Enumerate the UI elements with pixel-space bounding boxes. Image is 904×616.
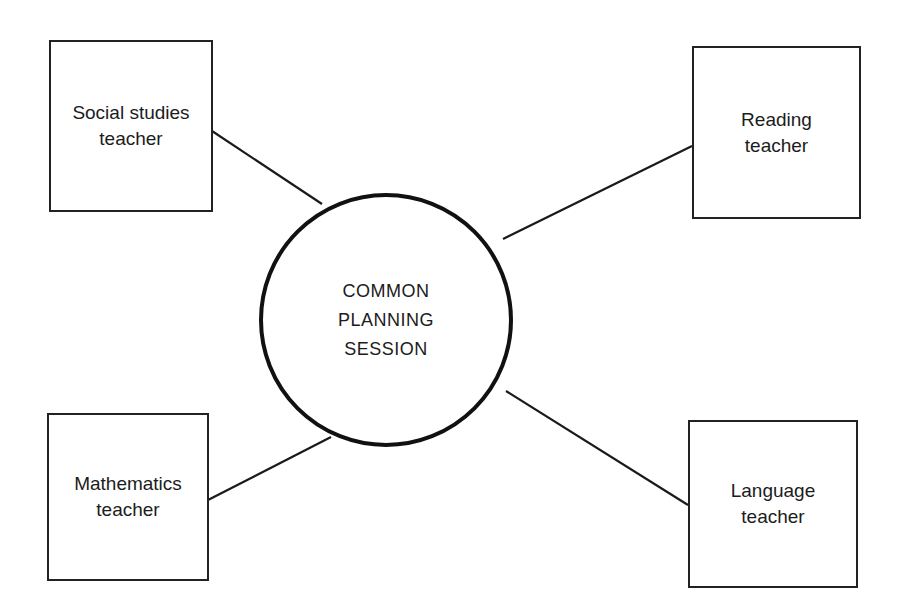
language-teacher-label: Language teacher <box>731 478 816 530</box>
edge-language-to-center <box>506 391 688 505</box>
mathematics-teacher-node: Mathematics teacher <box>47 413 209 581</box>
common-planning-session-hub: COMMON PLANNING SESSION <box>259 193 513 447</box>
mathematics-teacher-label: Mathematics teacher <box>74 471 182 523</box>
edge-math-to-center <box>208 437 331 500</box>
language-teacher-node: Language teacher <box>688 420 858 588</box>
reading-teacher-node: Reading teacher <box>692 46 861 219</box>
reading-teacher-label: Reading teacher <box>741 107 812 159</box>
social-studies-teacher-node: Social studies teacher <box>49 40 213 212</box>
edge-social-to-center <box>212 131 322 204</box>
social-studies-teacher-label: Social studies teacher <box>72 100 189 152</box>
common-planning-session-label: COMMON PLANNING SESSION <box>338 277 434 364</box>
edge-reading-to-center <box>503 146 692 239</box>
